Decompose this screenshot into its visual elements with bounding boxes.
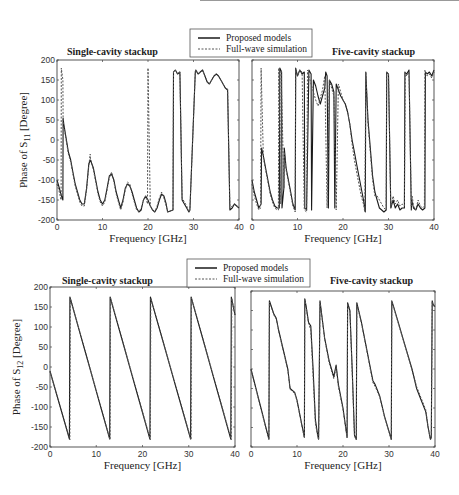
- series-proposed-line: [252, 68, 434, 212]
- y-axis-label: Phase of S12 [Degree]: [10, 319, 25, 415]
- legend-proposed-label: Proposed models: [226, 33, 291, 43]
- series-fullwave-line: [57, 68, 239, 212]
- chart-title: Single-cavity stackup: [67, 46, 158, 57]
- chart-title: Five-cavity stackup: [330, 275, 413, 286]
- y-tick-label: 50: [39, 342, 49, 352]
- plot-frame: [50, 287, 235, 447]
- x-tick-label: 30: [384, 222, 394, 232]
- x-tick-label: 20: [143, 222, 153, 232]
- legend-fullwave-label: Full-wave simulation: [226, 44, 307, 54]
- series-fullwave-line: [251, 300, 435, 440]
- y-tick-label: 0: [50, 135, 55, 145]
- chart-s12_five: Five-cavity stackup010203040Frequency [G…: [249, 275, 440, 471]
- series-fullwave-line: [50, 298, 235, 440]
- x-tick-label: 10: [293, 222, 303, 232]
- y-tick-label: 100: [41, 95, 55, 105]
- x-tick-label: 30: [189, 222, 199, 232]
- x-tick-label: 20: [138, 449, 148, 459]
- y-tick-label: -50: [43, 155, 56, 165]
- chart-s11_five: Five-cavity stackup010203040Frequency [G…: [250, 46, 439, 244]
- x-tick-label: 0: [249, 449, 254, 459]
- x-tick-label: 30: [184, 449, 194, 459]
- x-tick-label: 0: [55, 222, 60, 232]
- y-tick-label: 50: [46, 115, 56, 125]
- x-axis-label: Frequency [GHz]: [304, 459, 381, 471]
- legend: Proposed modelsFull-wave simulation: [190, 29, 312, 57]
- x-tick-label: 40: [234, 222, 244, 232]
- x-tick-label: 0: [48, 449, 53, 459]
- y-tick-label: -150: [31, 422, 48, 432]
- x-axis-label: Frequency [GHz]: [304, 232, 381, 244]
- y-tick-label: 150: [41, 75, 55, 85]
- legend-proposed-label: Proposed models: [223, 263, 288, 273]
- figure-canvas: Single-cavity stackup010203040-200-150-1…: [0, 0, 459, 495]
- y-tick-label: -200: [31, 442, 48, 452]
- y-tick-label: 150: [34, 302, 48, 312]
- x-tick-label: 10: [292, 449, 302, 459]
- y-tick-label: -100: [31, 402, 48, 412]
- x-tick-label: 10: [98, 222, 108, 232]
- x-tick-label: 20: [338, 222, 348, 232]
- series-proposed-line: [251, 299, 435, 439]
- x-tick-label: 40: [430, 449, 440, 459]
- chart-title: Single-cavity stackup: [62, 275, 153, 286]
- chart-s11_single: Single-cavity stackup010203040-200-150-1…: [17, 46, 244, 244]
- x-axis-label: Frequency [GHz]: [109, 232, 186, 244]
- y-tick-label: 200: [41, 55, 55, 65]
- y-tick-label: 100: [34, 322, 48, 332]
- legend: Proposed modelsFull-wave simulation: [187, 259, 310, 287]
- chart-title: Five-cavity stackup: [332, 46, 415, 57]
- x-tick-label: 0: [250, 222, 255, 232]
- y-tick-label: 0: [43, 362, 48, 372]
- y-axis-label: Phase of S11 [Degree]: [17, 92, 32, 188]
- chart-s12_single: Single-cavity stackup010203040-200-150-1…: [10, 275, 240, 471]
- x-tick-label: 40: [429, 222, 439, 232]
- x-tick-label: 30: [384, 449, 394, 459]
- y-tick-label: -50: [36, 382, 49, 392]
- y-tick-label: 200: [34, 282, 48, 292]
- series-proposed-line: [50, 297, 235, 439]
- y-tick-label: -100: [38, 175, 55, 185]
- x-axis-label: Frequency [GHz]: [104, 459, 181, 471]
- y-tick-label: -150: [38, 195, 55, 205]
- plot-frame: [251, 291, 435, 447]
- legend-fullwave-label: Full-wave simulation: [223, 274, 304, 284]
- x-tick-label: 20: [338, 449, 348, 459]
- x-tick-label: 10: [92, 449, 102, 459]
- y-tick-label: -200: [38, 215, 55, 225]
- x-tick-label: 40: [230, 449, 240, 459]
